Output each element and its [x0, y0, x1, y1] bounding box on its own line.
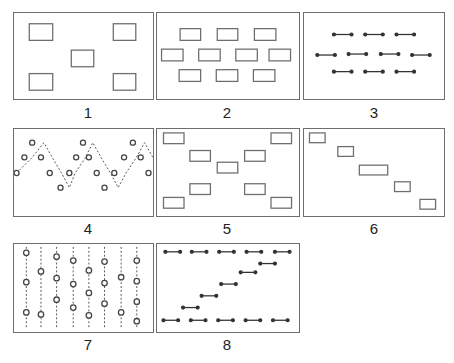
panel-4	[13, 128, 154, 217]
panel-3-diagram	[304, 13, 444, 99]
panel-6-diagram	[304, 129, 444, 216]
panel-1-label: 1	[68, 104, 108, 121]
panel-7-diagram	[14, 244, 153, 332]
panel-2	[156, 12, 300, 100]
panel-2-label: 2	[207, 104, 247, 121]
panel-5-label: 5	[207, 220, 247, 237]
panel-5	[156, 128, 300, 217]
panel-4-diagram	[14, 129, 153, 216]
panel-7-label: 7	[68, 336, 108, 353]
panel-1	[13, 12, 154, 100]
panel-3-label: 3	[354, 104, 394, 121]
panel-1-diagram	[14, 13, 153, 99]
panel-4-label: 4	[68, 220, 108, 237]
panel-5-diagram	[157, 129, 299, 216]
panel-6	[303, 128, 445, 217]
panel-3	[303, 12, 445, 100]
panel-7	[13, 243, 154, 333]
panel-2-diagram	[157, 13, 299, 99]
panel-8-diagram	[157, 244, 299, 332]
panel-8	[156, 243, 300, 333]
panel-8-label: 8	[207, 336, 247, 353]
panel-6-label: 6	[354, 220, 394, 237]
